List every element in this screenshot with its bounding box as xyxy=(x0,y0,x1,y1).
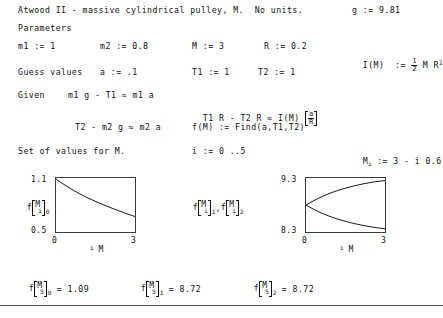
result-item: fM50 = 1.09 xyxy=(18,272,89,296)
plot1-y-bracket: Mi xyxy=(32,201,46,215)
result-1-value: = 8.72 xyxy=(169,284,201,294)
inertia-body: M R xyxy=(423,60,439,70)
plot2-y-bottom-tick: 8.3 xyxy=(281,226,297,235)
plot1-y-bottom-tick: 0.5 xyxy=(31,226,47,235)
plot1-y-index: 0 xyxy=(45,208,49,215)
plot2-curves-svg xyxy=(306,178,385,232)
param-R: R := 0.2 xyxy=(264,41,307,51)
range-variable-i: i := 0 ..5 xyxy=(192,146,246,156)
page-title: Atwood II - massive cylindrical pulley, … xyxy=(18,5,303,15)
plot1-y-axis-label: fMi0 xyxy=(16,191,49,215)
guess-a: a := .1 xyxy=(100,67,138,77)
plot2-T2-curve xyxy=(306,205,385,229)
param-bigM: M := 3 xyxy=(192,41,224,51)
section-guess-heading: Guess values xyxy=(18,67,83,77)
plot1-x-right-tick: 3 xyxy=(131,236,136,245)
plot1-x-axis-label-subscript: i xyxy=(90,244,94,251)
plot2-y-bracket-1: Mi xyxy=(198,201,212,215)
plot2-x-right-tick: 3 xyxy=(381,236,386,245)
a-over-R-fraction: aR xyxy=(308,111,314,126)
plot1-graph[interactable] xyxy=(55,177,136,233)
result-2-bracket: M5 xyxy=(259,282,273,296)
inertia-definition: I(M) := 12 M R2 xyxy=(352,48,443,73)
plot1-x-left-tick: 0 xyxy=(52,236,57,245)
result-0-value: = 1.09 xyxy=(57,284,89,294)
plot1-curve-svg xyxy=(56,178,135,232)
given-equation-2: T2 - m2 g ≈ m2 a xyxy=(75,122,161,132)
result-1-token: fM51 xyxy=(141,282,164,296)
guess-T2: T2 := 1 xyxy=(258,67,296,77)
plot1-y-top-tick: 1.1 xyxy=(31,175,47,184)
inertia-lhs: I(M) := xyxy=(363,60,406,70)
section-given-heading: Given xyxy=(18,90,45,100)
inertia-exponent: 2 xyxy=(439,59,443,66)
param-m2: m2 := 0.8 xyxy=(100,41,148,51)
result-item: fM51 = 8.72 xyxy=(130,272,201,296)
page-divider xyxy=(0,305,443,306)
result-2-token: fM52 xyxy=(254,282,277,296)
plot1-acceleration-curve xyxy=(56,179,135,217)
M-def-rhs: := 3 - i 0.6 xyxy=(377,156,442,166)
param-m1: m1 := 1 xyxy=(18,41,56,51)
plot2-graph[interactable] xyxy=(305,177,386,233)
plot2-y-index-2: 2 xyxy=(239,208,243,215)
result-0-index: 0 xyxy=(47,289,51,296)
plot1-y-f-token: fMi0 xyxy=(27,201,50,215)
plot2-y-f2-token: fMi2 xyxy=(221,201,244,215)
plot2-x-left-tick: 0 xyxy=(302,236,307,245)
result-2-index: 2 xyxy=(272,289,276,296)
plot2-y-top-tick: 9.3 xyxy=(281,175,297,184)
plot2-x-axis-label-subscript: i xyxy=(340,244,344,251)
result-0-bracket: M5 xyxy=(34,282,48,296)
plot2-y-index-1: 1 xyxy=(211,208,215,215)
guess-T1: T1 := 1 xyxy=(192,67,230,77)
result-2-value: = 8.72 xyxy=(282,284,314,294)
acceleration-over-R-vector: aR xyxy=(305,111,317,126)
plot2-y-f1-token: fMi1 xyxy=(193,201,216,215)
result-0-token: fM50 xyxy=(29,282,52,296)
M-subscript-definition: Mi := 3 - i 0.6 xyxy=(352,146,442,167)
plot2-y-bracket-2: Mi xyxy=(226,201,240,215)
plot2-T1-curve xyxy=(306,181,385,205)
result-1-bracket: M5 xyxy=(146,282,160,296)
find-definition: f(M) := Find(a,T1,T2) xyxy=(192,122,305,132)
section-parameters-heading: Parameters xyxy=(18,23,72,33)
result-item: fM52 = 8.72 xyxy=(243,272,314,296)
given-equation-1: m1 g - T1 ≈ m1 a xyxy=(68,90,154,100)
section-set-values-heading: Set of values for M. xyxy=(18,146,126,156)
constant-g: g := 9.81 xyxy=(352,5,400,15)
plot2-y-axis-label: fMi1,fMi2 xyxy=(182,191,244,215)
result-1-index: 1 xyxy=(159,289,163,296)
